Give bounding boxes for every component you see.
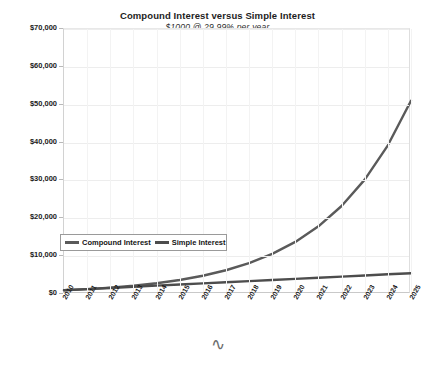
x-gridline	[388, 29, 389, 292]
y-gridline	[64, 29, 409, 30]
legend-swatch-icon	[155, 241, 169, 244]
y-gridline	[64, 67, 409, 68]
chart-legend: Compound Interest Simple Interest	[60, 234, 227, 251]
y-axis-tick-label: $20,000	[0, 212, 57, 221]
legend-entry-compound-interest: Compound Interest	[65, 238, 151, 247]
legend-swatch-icon	[65, 241, 79, 244]
y-axis-tick-label: $50,000	[0, 99, 57, 108]
x-gridline	[87, 29, 88, 292]
y-axis-tick-label: $30,000	[0, 174, 57, 183]
x-gridline	[342, 29, 343, 292]
plot-area	[63, 28, 410, 293]
y-gridline	[64, 143, 409, 144]
y-gridline	[64, 180, 409, 181]
x-gridline	[365, 29, 366, 292]
x-gridline	[318, 29, 319, 292]
y-axis-tick-label: $60,000	[0, 61, 57, 70]
x-gridline	[226, 29, 227, 292]
y-gridline	[64, 105, 409, 106]
x-gridline	[272, 29, 273, 292]
y-axis-tick-label: $40,000	[0, 137, 57, 146]
series-line	[64, 101, 411, 290]
series-lines	[64, 29, 411, 294]
y-axis-tick-label: $10,000	[0, 250, 57, 259]
x-gridline	[411, 29, 412, 292]
x-gridline	[133, 29, 134, 292]
x-gridline	[203, 29, 204, 292]
legend-entry-simple-interest: Simple Interest	[155, 238, 226, 247]
legend-label: Simple Interest	[172, 238, 226, 247]
x-gridline	[295, 29, 296, 292]
x-gridline	[110, 29, 111, 292]
legend-label: Compound Interest	[82, 238, 151, 247]
y-axis-tick-label: $70,000	[0, 23, 57, 32]
y-gridline	[64, 256, 409, 257]
x-gridline	[157, 29, 158, 292]
flourish-ornament-icon: ∿	[0, 336, 435, 353]
x-gridline	[180, 29, 181, 292]
y-gridline	[64, 218, 409, 219]
chart-container: Compound Interest versus Simple Interest…	[0, 0, 435, 371]
x-gridline	[249, 29, 250, 292]
y-axis-tick-label: $0	[0, 288, 57, 297]
